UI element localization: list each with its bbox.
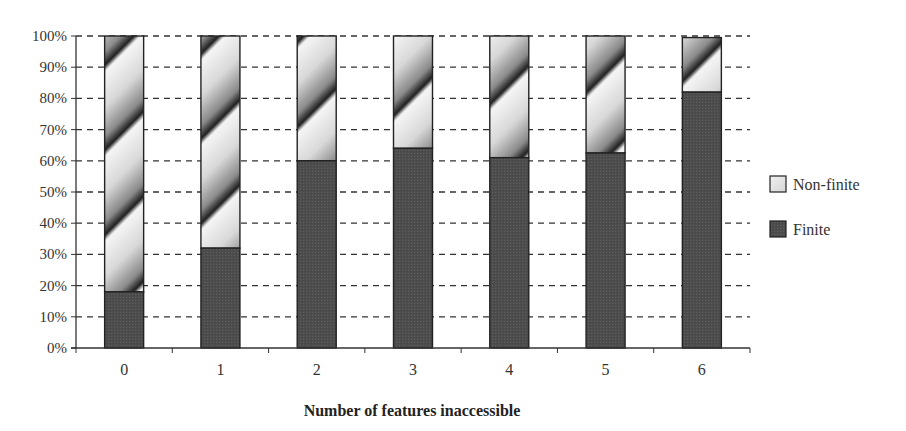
bar-segment-non-finite	[105, 36, 144, 292]
x-tick-label: 3	[409, 361, 417, 378]
x-tick-label: 4	[505, 361, 513, 378]
x-tick-label: 1	[216, 361, 224, 378]
stacked-bar-chart: 0%10%20%30%40%50%60%70%80%90%100% 012345…	[0, 0, 906, 431]
bar-segment-non-finite	[394, 36, 433, 148]
y-tick-label: 30%	[40, 246, 68, 262]
legend-item-finite: Finite	[770, 221, 830, 238]
y-tick-label: 90%	[40, 59, 68, 75]
x-tick-label: 0	[120, 361, 128, 378]
bar-segment-finite	[105, 292, 144, 348]
bar-segment-finite	[586, 153, 625, 348]
legend-label: Finite	[793, 221, 830, 238]
bar-group-3	[394, 36, 433, 348]
y-tick-label: 70%	[40, 122, 68, 138]
y-tick-label: 0%	[47, 340, 67, 356]
y-tick-label: 100%	[32, 28, 67, 44]
x-axis-label: Number of features inaccessible	[304, 402, 521, 419]
bar-group-2	[297, 36, 336, 348]
legend-item-non-finite: Non-finite	[770, 176, 860, 193]
bar-group-1	[201, 36, 240, 348]
y-tick-label: 40%	[40, 215, 68, 231]
bar-segment-non-finite	[297, 36, 336, 161]
bar-group-6	[682, 38, 721, 348]
legend-swatch	[770, 176, 786, 192]
legend-label: Non-finite	[793, 176, 860, 193]
x-tick-label: 2	[313, 361, 321, 378]
bar-group-5	[586, 36, 625, 348]
x-tick-label: 5	[602, 361, 610, 378]
bar-segment-finite	[201, 248, 240, 348]
y-tick-label: 50%	[40, 184, 68, 200]
y-tick-label: 80%	[40, 90, 68, 106]
legend: Non-finiteFinite	[770, 176, 860, 238]
bar-segment-non-finite	[201, 36, 240, 248]
legend-swatch	[770, 221, 786, 237]
bar-segment-non-finite	[682, 38, 721, 93]
bar-segment-non-finite	[586, 36, 625, 153]
bar-segment-finite	[490, 158, 529, 348]
bar-segment-finite	[297, 161, 336, 348]
bar-group-0	[105, 36, 144, 348]
y-tick-label: 10%	[40, 309, 68, 325]
y-tick-label: 20%	[40, 278, 68, 294]
bar-group-4	[490, 36, 529, 348]
bar-segment-finite	[394, 148, 433, 348]
y-axis: 0%10%20%30%40%50%60%70%80%90%100%	[32, 28, 76, 356]
x-axis: 0123456	[71, 348, 750, 378]
bar-segment-finite	[682, 92, 721, 348]
y-tick-label: 60%	[40, 153, 68, 169]
x-tick-label: 6	[698, 361, 706, 378]
bar-segment-non-finite	[490, 36, 529, 158]
